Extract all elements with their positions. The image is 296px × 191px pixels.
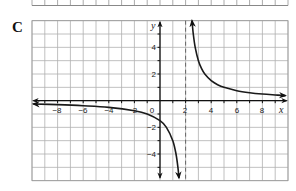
y-tick-label: −2 xyxy=(147,123,157,132)
x-tick-label: 0 xyxy=(150,106,155,115)
x-tick-label: 4 xyxy=(209,106,214,115)
x-tick-label: 2 xyxy=(183,106,188,115)
previous-figure-remnant xyxy=(32,0,288,6)
x-axis-label: x xyxy=(278,104,284,115)
y-tick-label: 2 xyxy=(152,70,157,79)
x-tick-label: 8 xyxy=(260,106,265,115)
x-tick-label: −8 xyxy=(52,106,62,115)
x-tick-label: −6 xyxy=(78,106,88,115)
x-tick-label: 6 xyxy=(235,106,240,115)
x-tick-label: −4 xyxy=(104,106,114,115)
y-tick-label: 4 xyxy=(152,43,157,52)
function-graph: −8 −6 −4 2 0 2 4 6 8 4 2 −2 −4 y x xyxy=(0,0,296,191)
y-tick-label: −4 xyxy=(147,150,157,159)
curve-right-branch xyxy=(192,21,285,96)
x-tick-label: 2 xyxy=(133,106,138,115)
y-axis-label: y xyxy=(150,20,156,31)
